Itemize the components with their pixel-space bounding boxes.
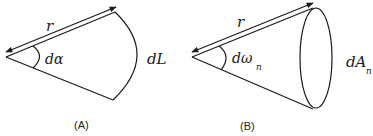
panel-b-caption: (B) [240,120,255,132]
panel-a-arc-label: dL [147,50,167,68]
angle-diagram: r dα dL (A) r dω n dA n (B) [0,0,373,136]
panel-b-area-label: dA [346,53,367,71]
panel-a-angle-label: dα [45,51,64,67]
panel-b-angle-label: dω [232,50,253,66]
panel-b: r dω n dA n (B) [192,3,372,132]
panel-b-base-ellipse [300,8,332,108]
panel-b-area-subscript: n [366,66,372,76]
panel-a-caption: (A) [74,119,89,131]
panel-a: r dα dL (A) [6,7,167,131]
panel-b-top-generatrix [192,8,313,57]
panel-b-angle-subscript: n [256,62,262,72]
panel-a-angle-arc [33,46,40,68]
panel-a-radius-arrow [6,7,116,52]
panel-b-bottom-generatrix [192,57,313,109]
panel-b-radius-arrow [192,3,313,52]
panel-b-r-label: r [237,13,245,31]
panel-a-r-label: r [46,17,54,35]
panel-a-arc [113,12,137,100]
panel-b-angle-arc [219,46,226,70]
